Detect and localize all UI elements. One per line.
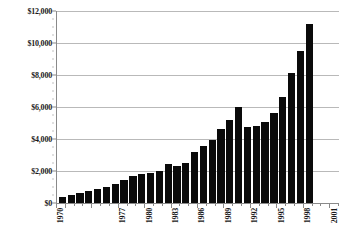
y-axis-minor-tick [52,115,54,116]
y-axis-minor-tick [52,59,54,60]
x-axis-tick [241,203,242,206]
x-axis-tick [232,203,233,206]
bar [226,120,233,203]
y-axis-tick-label: $2,000 [0,167,52,176]
y-axis-minor-tick [52,67,54,68]
x-axis-tick [312,203,313,206]
x-axis-tick [294,203,295,206]
y-axis-tick-label: $4,000 [0,135,52,144]
y-axis-minor-tick [52,187,54,188]
bar [279,97,286,203]
bar [173,166,180,203]
bar [297,51,304,203]
bar [182,163,189,203]
y-axis-minor-tick [52,91,54,92]
x-axis-tick-label: 1977 [118,208,127,223]
x-axis-tick-label: 1980 [145,208,154,223]
bar [270,113,277,203]
x-axis-tick-label: 2001 [330,208,339,223]
y-axis-tick-label: $12,000 [0,7,52,16]
y-axis-minor-tick [52,195,54,196]
y-axis-tick-label: $0 [0,199,52,208]
x-axis-tick-label: 1983 [171,208,180,223]
x-axis-tick [285,203,286,206]
x-axis-tick [135,203,136,206]
x-axis-tick [268,203,269,206]
y-axis-minor-tick [52,131,54,132]
y-axis-tick-label: $8,000 [0,71,52,80]
bar [261,122,268,203]
bar [288,73,295,203]
x-axis-tick [179,203,180,206]
bar [68,195,75,203]
x-axis-tick-label: 1992 [250,208,259,223]
y-axis-minor-tick [52,179,54,180]
x-axis-tick [74,203,75,206]
y-axis-minor-tick [52,27,54,28]
bar [147,173,154,203]
x-axis-tick [320,203,321,206]
y-axis-minor-tick [52,19,54,20]
bar-chart: $0 $2,000 $4,000 $6,000 $8,000 $10,000 $… [0,0,343,244]
x-axis-labels: 1970197719801983198619891992199519982001 [56,208,338,244]
bar [200,146,207,203]
bar [138,174,145,203]
y-axis-minor-tick [52,147,54,148]
x-axis-tick [153,203,154,206]
y-axis-tick-label: $10,000 [0,39,52,48]
bar [217,129,224,203]
y-axis-minor-tick [52,35,54,36]
bar [120,180,127,203]
bar [253,126,260,203]
x-axis-tick-label: 1998 [303,208,312,223]
x-axis-tick [338,203,339,206]
y-axis-minor-tick [52,51,54,52]
x-axis-tick-label: 1986 [197,208,206,223]
x-axis-tick-label: 1989 [224,208,233,223]
x-axis-tick-label: 1970 [56,208,65,223]
bar [191,152,198,203]
x-axis-tick [215,203,216,206]
x-axis-tick [109,203,110,206]
x-axis-tick [100,203,101,206]
bar [129,176,136,203]
y-axis-minor-tick [52,83,54,84]
bar [235,107,242,203]
y-axis-minor-tick [52,155,54,156]
y-axis-minor-tick [52,99,54,100]
bar-series [57,11,339,203]
x-axis-tick [82,203,83,206]
plot-area [56,11,339,203]
bar [156,171,163,203]
y-axis-minor-tick [52,163,54,164]
bar [76,193,83,203]
bar [103,187,110,203]
x-axis-tick [206,203,207,206]
y-axis-labels: $0 $2,000 $4,000 $6,000 $8,000 $10,000 $… [0,0,52,244]
x-axis-tick [188,203,189,206]
bar [112,184,119,203]
x-axis-tick-label: 1995 [277,208,286,223]
bar [85,191,92,203]
bar [209,140,216,203]
x-axis-tick [259,203,260,206]
y-axis-minor-tick [52,123,54,124]
bar [244,127,251,203]
x-axis-tick [127,203,128,206]
y-axis-tick-label: $6,000 [0,103,52,112]
bar [94,189,101,203]
bar [306,24,313,203]
x-axis-tick [162,203,163,206]
bar [165,164,172,203]
